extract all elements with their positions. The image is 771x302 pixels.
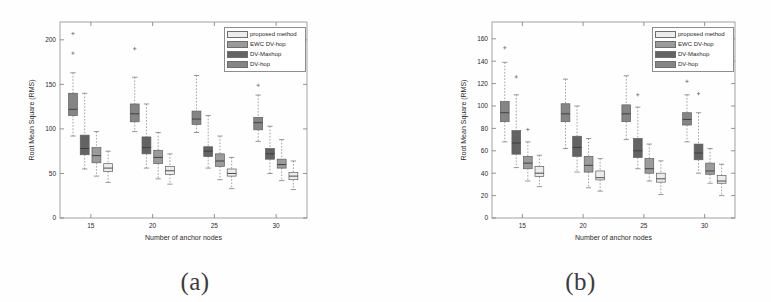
svg-text:20: 20 [580,222,588,229]
legend-swatch-ewc-dv-hop [655,41,676,48]
legend-label-dv-maxhop: DV-Maxhop [250,51,281,58]
legend-item: DV-hop [655,60,730,69]
legend-label-dv-maxhop: DV-Maxhop [678,51,709,58]
svg-text:100: 100 [45,125,56,132]
svg-text:20: 20 [481,192,489,199]
svg-text:Number of anchor nodes: Number of anchor nodes [575,234,653,241]
svg-text:40: 40 [481,170,489,177]
svg-text:25: 25 [640,222,648,229]
svg-text:Root Mean Square (RMS): Root Mean Square (RMS) [460,80,468,161]
legend-item: proposed method [227,30,302,39]
svg-text:30: 30 [701,222,709,229]
legend-swatch-dv-maxhop [655,51,676,58]
legend-swatch-proposed-method [227,31,248,38]
svg-text:140: 140 [477,58,488,65]
svg-text:Number of anchor nodes: Number of anchor nodes [145,234,223,241]
panel-caption-b: (b) [390,268,771,296]
legend-item: DV-Maxhop [655,50,730,59]
panel-caption-a: (a) [0,268,390,296]
panel-a: 05010015020015202530Number of anchor nod… [0,0,390,302]
svg-text:25: 25 [211,222,219,229]
svg-text:30: 30 [273,222,281,229]
legend-item: EWC DV-hop [227,40,302,49]
legend-swatch-dv-hop [227,61,248,68]
panel-b: 02040608010012014016015202530Number of a… [390,0,771,302]
legend-label-proposed-method: proposed method [250,31,297,38]
legend-swatch-ewc-dv-hop [227,41,248,48]
svg-text:Root Mean Square (RMS): Root Mean Square (RMS) [28,80,36,161]
legend-item: proposed method [655,30,730,39]
legend-b: proposed method EWC DV-hop DV-Maxhop DV-… [652,27,734,72]
svg-text:60: 60 [481,147,489,154]
legend-item: DV-Maxhop [227,50,302,59]
legend-label-dv-hop: DV-hop [250,61,270,68]
svg-text:80: 80 [481,125,489,132]
svg-text:15: 15 [519,222,527,229]
legend-a: proposed method EWC DV-hop DV-Maxhop DV-… [224,27,306,72]
svg-text:0: 0 [52,214,56,221]
svg-text:160: 160 [477,35,488,42]
legend-item: DV-hop [227,60,302,69]
legend-item: EWC DV-hop [655,40,730,49]
svg-text:15: 15 [87,222,95,229]
legend-label-ewc-dv-hop: EWC DV-hop [678,41,714,48]
legend-label-ewc-dv-hop: EWC DV-hop [250,41,286,48]
boxplot-chart-a: 05010015020015202530Number of anchor nod… [0,0,390,260]
legend-label-proposed-method: proposed method [678,31,725,38]
legend-label-dv-hop: DV-hop [678,61,698,68]
svg-text:200: 200 [45,36,56,43]
svg-text:100: 100 [477,102,488,109]
figure-container: 05010015020015202530Number of anchor nod… [0,0,771,302]
svg-text:150: 150 [45,81,56,88]
svg-text:0: 0 [484,214,488,221]
svg-text:50: 50 [49,170,57,177]
legend-swatch-proposed-method [655,31,676,38]
svg-text:120: 120 [477,80,488,87]
svg-text:20: 20 [149,222,157,229]
legend-swatch-dv-hop [655,61,676,68]
legend-swatch-dv-maxhop [227,51,248,58]
